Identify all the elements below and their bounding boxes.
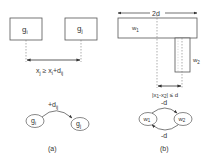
box-gi: gi bbox=[10, 18, 42, 40]
constraint-graph-b: w1 w2 -d -d bbox=[139, 99, 192, 139]
caption-a: (a) bbox=[48, 145, 57, 153]
edge-w1-w2-label: -d bbox=[161, 99, 167, 106]
rect-w2: w2 bbox=[175, 38, 200, 72]
constraint-a-label: xj ≥ xi+dij bbox=[36, 67, 63, 76]
caption-b: (b) bbox=[160, 145, 169, 153]
diagram-canvas: gi gj xj ≥ xi+dij gi gj +dij (a) 2d bbox=[0, 0, 211, 161]
edge-w2-w1-label: -d bbox=[161, 132, 167, 139]
panel-a: gi gj xj ≥ xi+dij gi gj +dij (a) bbox=[10, 18, 97, 153]
edge-w1-w2 bbox=[152, 108, 177, 113]
edge-gi-gj bbox=[42, 111, 72, 118]
rect-w1: w1 bbox=[118, 18, 197, 38]
edge-gi-gj-label: +dij bbox=[48, 101, 58, 110]
rect-w2-label: w2 bbox=[192, 57, 200, 65]
edge-w2-w1 bbox=[152, 125, 178, 130]
box-gj: gj bbox=[65, 18, 97, 40]
width-label: 2d bbox=[152, 10, 160, 17]
constraint-graph-a: gi gj +dij bbox=[26, 101, 89, 131]
panel-b: 2d w1 w2 |x1-x2| ≤ d w1 w2 -d -d ( bbox=[118, 10, 200, 154]
